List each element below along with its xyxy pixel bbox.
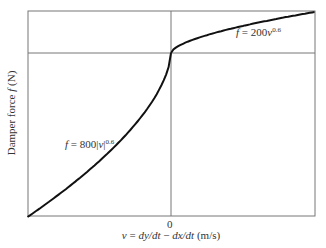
compression-curve [28, 53, 172, 217]
extension-equation-label: f = 200v0.6 [236, 27, 281, 38]
x-axis-label: v = dy/dt − dx/dt (m/s) [122, 230, 220, 241]
compression-equation-label: f = 800|v|0.6 [65, 139, 114, 150]
y-axis-label: Damper force f (N) [5, 71, 17, 156]
